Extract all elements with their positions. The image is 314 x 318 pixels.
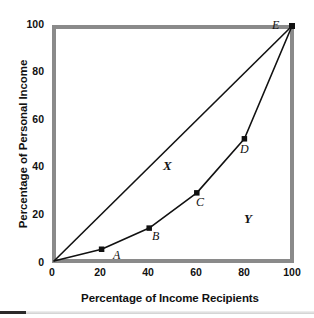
bottom-divider xyxy=(0,311,314,314)
y-tick-label-20: 20 xyxy=(10,208,44,220)
data-point-label-a: A xyxy=(113,248,120,263)
data-point-label-e: E xyxy=(272,18,279,33)
plot-area-frame xyxy=(52,25,294,263)
x-tick-label-0: 0 xyxy=(35,266,69,278)
data-point-label-b: B xyxy=(152,229,159,244)
x-tick-label-40: 40 xyxy=(131,266,165,278)
y-tick-label-80: 80 xyxy=(10,65,44,77)
bottom-divider-marker xyxy=(0,311,26,314)
x-tick-label-20: 20 xyxy=(83,266,117,278)
y-tick-label-100: 100 xyxy=(10,18,44,30)
y-tick-label-60: 60 xyxy=(10,113,44,125)
x-axis-title: Percentage of Income Recipients xyxy=(40,292,300,304)
data-point-label-c: C xyxy=(196,195,204,210)
x-tick-label-100: 100 xyxy=(275,266,309,278)
region-label-x: X xyxy=(163,158,172,174)
y-tick-label-40: 40 xyxy=(10,160,44,172)
lorenz-curve-figure: Percentage of Personal Income 100 80 60 … xyxy=(0,0,314,318)
data-point-label-d: D xyxy=(240,142,249,157)
y-axis-title: Percentage of Personal Income xyxy=(14,25,32,263)
x-tick-label-80: 80 xyxy=(227,266,261,278)
x-tick-label-60: 60 xyxy=(179,266,213,278)
region-label-y: Y xyxy=(244,211,252,227)
